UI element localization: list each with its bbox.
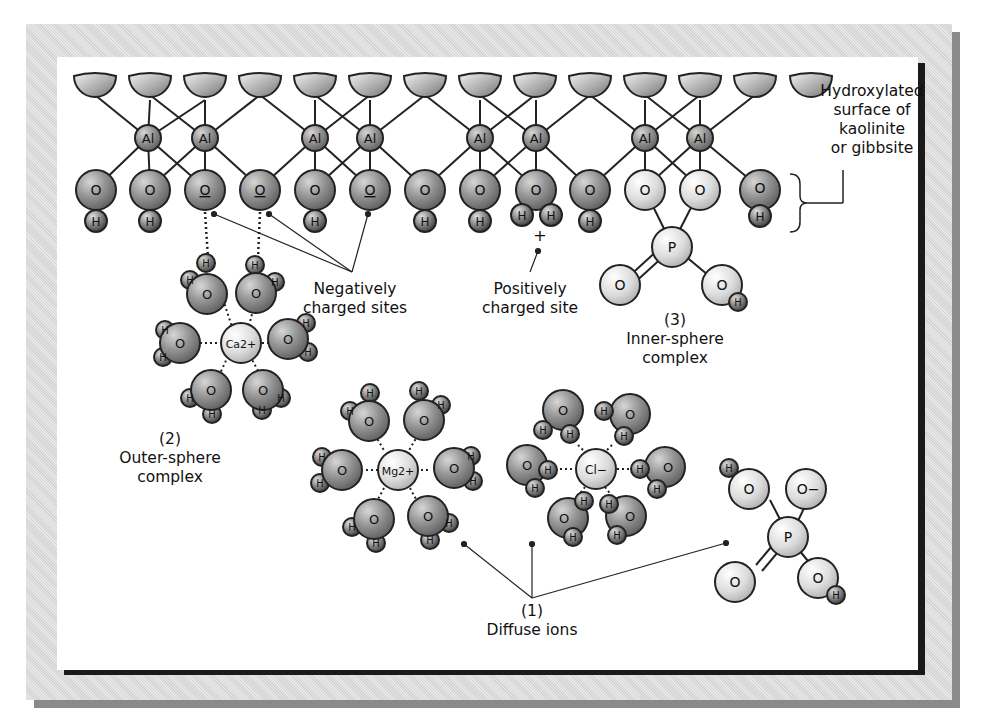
svg-text:Mg2+: Mg2+ bbox=[382, 465, 415, 478]
svg-text:+: + bbox=[533, 226, 546, 245]
svg-text:H: H bbox=[437, 400, 445, 411]
svg-text:O: O bbox=[419, 182, 430, 198]
aluminum-atoms bbox=[135, 125, 713, 151]
svg-text:H: H bbox=[346, 406, 354, 417]
surface-caps bbox=[74, 73, 832, 97]
svg-text:P: P bbox=[784, 529, 792, 545]
svg-text:H: H bbox=[517, 209, 526, 223]
svg-text:H: H bbox=[734, 297, 742, 308]
svg-text:O: O bbox=[144, 182, 155, 198]
svg-text:H: H bbox=[755, 210, 764, 224]
svg-text:O: O bbox=[716, 277, 727, 293]
svg-text:O: O bbox=[625, 407, 635, 422]
diffuse-phosphate: H O O− P O O H bbox=[715, 459, 845, 604]
outer-sphere-label: (2) Outer-sphere complex bbox=[115, 430, 225, 487]
svg-text:H: H bbox=[569, 532, 577, 543]
svg-text:O: O bbox=[202, 287, 212, 302]
negative-sites-label: Negatively charged sites bbox=[295, 280, 415, 318]
svg-text:O: O bbox=[474, 182, 485, 198]
svg-text:Al: Al bbox=[694, 131, 707, 146]
svg-text:O: O bbox=[812, 570, 823, 586]
svg-text:O: O bbox=[283, 332, 293, 347]
chloride-complex: O O O O O O Cl− H H H H H H H H H H H H bbox=[507, 390, 685, 546]
svg-text:H: H bbox=[467, 451, 475, 462]
svg-text:H: H bbox=[580, 496, 588, 507]
svg-text:O: O bbox=[558, 403, 568, 418]
svg-text:H: H bbox=[420, 215, 429, 229]
surface-brace bbox=[790, 170, 843, 232]
svg-text:H: H bbox=[832, 590, 840, 601]
svg-text:H: H bbox=[566, 429, 574, 440]
svg-text:H: H bbox=[208, 409, 216, 420]
svg-text:H: H bbox=[91, 215, 100, 229]
svg-text:H: H bbox=[258, 405, 266, 416]
svg-text:O: O bbox=[90, 182, 101, 198]
svg-text:O: O bbox=[206, 383, 216, 398]
svg-text:H: H bbox=[544, 465, 552, 476]
svg-text:O: O bbox=[522, 458, 532, 473]
svg-text:H: H bbox=[159, 352, 167, 363]
svg-text:O: O bbox=[419, 413, 429, 428]
svg-text:H: H bbox=[202, 258, 210, 269]
hydrogen-bond-dots bbox=[205, 212, 260, 258]
diffuse-ions-label: (1) Diffuse ions bbox=[472, 602, 592, 640]
svg-text:O: O bbox=[337, 463, 347, 478]
svg-text:H: H bbox=[531, 483, 539, 494]
svg-text:O−: O− bbox=[797, 481, 820, 497]
diffuse-ion-leaders bbox=[462, 541, 729, 599]
svg-text:H: H bbox=[161, 325, 169, 336]
magnesium-complex: O O O O O O Mg2+ H H H H H H H H H H H H bbox=[311, 382, 482, 552]
svg-text:O: O bbox=[694, 182, 705, 198]
svg-text:O: O bbox=[309, 182, 320, 198]
svg-text:Al: Al bbox=[530, 131, 543, 146]
svg-text:H: H bbox=[186, 393, 194, 404]
svg-text:O: O bbox=[423, 509, 433, 524]
svg-text:O: O bbox=[639, 182, 650, 198]
svg-text:H: H bbox=[653, 484, 661, 495]
aluminum-labels: Al Al Al Al Al Al Al Al bbox=[142, 131, 707, 146]
svg-text:H: H bbox=[271, 277, 279, 288]
svg-text:H: H bbox=[366, 388, 374, 399]
svg-text:H: H bbox=[316, 478, 324, 489]
svg-text:H: H bbox=[636, 464, 644, 475]
svg-text:O: O bbox=[559, 511, 569, 526]
svg-text:H: H bbox=[546, 209, 555, 223]
svg-text:Al: Al bbox=[199, 131, 212, 146]
svg-text:O: O bbox=[175, 336, 185, 351]
svg-text:H: H bbox=[600, 406, 608, 417]
svg-text:H: H bbox=[539, 425, 547, 436]
svg-text:H: H bbox=[186, 275, 194, 286]
svg-text:H: H bbox=[372, 538, 380, 549]
svg-text:H: H bbox=[310, 215, 319, 229]
svg-text:H: H bbox=[469, 476, 477, 487]
inner-sphere-label: (3) Inner-sphere complex bbox=[620, 311, 730, 368]
svg-text:O: O bbox=[369, 512, 379, 527]
svg-text:H: H bbox=[613, 530, 621, 541]
svg-text:H: H bbox=[145, 215, 154, 229]
positive-site-label: Positively charged site bbox=[470, 280, 590, 318]
svg-text:H: H bbox=[426, 535, 434, 546]
svg-text:O: O bbox=[530, 182, 541, 198]
svg-text:H: H bbox=[318, 452, 326, 463]
svg-text:O: O bbox=[663, 460, 673, 475]
svg-text:Al: Al bbox=[474, 131, 487, 146]
svg-text:H: H bbox=[725, 463, 733, 474]
svg-text:O: O bbox=[251, 286, 261, 301]
svg-text:Cl−: Cl− bbox=[585, 463, 607, 477]
svg-text:H: H bbox=[585, 215, 594, 229]
svg-text:O: O bbox=[364, 414, 374, 429]
svg-text:Al: Al bbox=[364, 131, 377, 146]
svg-text:O: O bbox=[199, 182, 210, 198]
svg-text:O: O bbox=[258, 383, 268, 398]
svg-text:O: O bbox=[254, 182, 265, 198]
svg-text:Al: Al bbox=[309, 131, 322, 146]
calcium-complex: O O O O O O Ca2+ H H H H H H H H H H H H bbox=[154, 254, 317, 423]
svg-text:O: O bbox=[364, 182, 375, 198]
svg-text:O: O bbox=[625, 509, 635, 524]
svg-text:H: H bbox=[348, 522, 356, 533]
svg-text:H: H bbox=[445, 518, 453, 529]
svg-text:H: H bbox=[304, 347, 312, 358]
svg-text:Ca2+: Ca2+ bbox=[226, 338, 257, 351]
svg-text:H: H bbox=[475, 215, 484, 229]
svg-text:H: H bbox=[251, 260, 259, 271]
